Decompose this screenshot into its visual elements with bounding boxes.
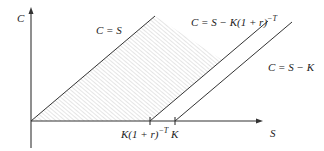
tick-label-discounted-exponent: −T [158, 126, 168, 135]
x-axis-label: S [270, 127, 276, 139]
tick-label-discounted-main: K(1 + r) [120, 128, 159, 141]
label-lower-bound-main: C = S − K(1 + r) [191, 16, 267, 29]
tick-label-strike: K [170, 128, 179, 140]
y-axis-label: C [17, 12, 25, 24]
label-lower-bound-discounted: C = S − K(1 + r)−T [191, 14, 277, 29]
label-intrinsic-value: C = S − K [268, 61, 315, 73]
option-bounds-diagram: C S C = S C = S − K(1 + r)−T C = S − K K… [0, 0, 324, 151]
y-axis-arrow-icon [29, 7, 34, 14]
label-upper-bound: C = S [96, 24, 122, 36]
label-lower-bound-exponent: −T [267, 14, 277, 23]
x-axis-arrow-icon [256, 119, 263, 124]
tick-label-discounted-strike: K(1 + r)−T [120, 126, 169, 141]
